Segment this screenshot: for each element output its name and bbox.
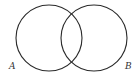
set-a-circle bbox=[16, 5, 82, 71]
venn-diagram: A B bbox=[0, 0, 138, 78]
set-b-label: B bbox=[124, 61, 132, 71]
set-a-label: A bbox=[8, 61, 16, 71]
set-b-circle bbox=[61, 5, 127, 71]
